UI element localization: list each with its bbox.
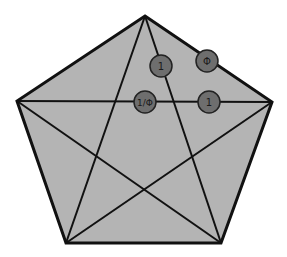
label-inverse-phi: 1/Φ bbox=[134, 91, 156, 113]
svg-text:1/Φ: 1/Φ bbox=[137, 98, 153, 108]
svg-text:Φ: Φ bbox=[203, 56, 211, 67]
pentagram-diagram: 1 Φ 1/Φ 1 bbox=[0, 0, 287, 257]
pentagon bbox=[17, 16, 272, 243]
svg-text:1: 1 bbox=[206, 97, 212, 108]
label-1-right: 1 bbox=[198, 91, 220, 113]
label-phi: Φ bbox=[196, 50, 218, 72]
svg-text:1: 1 bbox=[158, 61, 164, 72]
label-1-upper: 1 bbox=[150, 55, 172, 77]
